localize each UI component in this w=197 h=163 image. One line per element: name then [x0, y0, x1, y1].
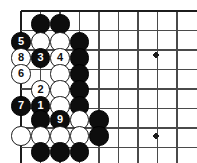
stone-move-number: 5 — [18, 36, 24, 47]
stone-move-number: 8 — [18, 52, 24, 63]
stone-black — [31, 14, 50, 33]
stone-move-number: 9 — [57, 114, 63, 125]
stone-black — [50, 142, 69, 161]
stone-black — [31, 142, 50, 161]
stone-black — [70, 142, 89, 161]
stone-move-number: 2 — [37, 84, 43, 95]
stone-move-number: 6 — [18, 68, 24, 79]
stone-move-number: 3 — [37, 52, 43, 63]
stone-white — [11, 126, 30, 145]
stone-black-move-3: 3 — [31, 48, 50, 67]
stone-white-move-6: 6 — [11, 64, 30, 83]
stone-black-move-7: 7 — [11, 96, 30, 115]
stone-move-number: 4 — [57, 52, 63, 63]
go-board-diagram: 583462719 — [0, 0, 197, 163]
stone-black — [89, 126, 108, 145]
stone-black — [50, 14, 69, 33]
stone-move-number: 7 — [18, 100, 24, 111]
stone-layer: 583462719 — [0, 0, 197, 163]
